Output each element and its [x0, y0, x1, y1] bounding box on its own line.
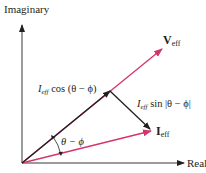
- angle-arc: [54, 138, 61, 154]
- axes: Imaginary Real: [4, 3, 206, 169]
- cos-component-label: Ieff cos (θ − ϕ): [37, 83, 97, 96]
- real-axis-label: Real: [187, 157, 206, 169]
- voltage-label: Veff: [163, 33, 181, 48]
- phasor-diagram: Imaginary Real Veff Ieff Ieff cos (θ − ϕ…: [0, 0, 206, 173]
- current-label: Ieff: [156, 124, 170, 139]
- angle-label: θ − ϕ: [61, 136, 84, 147]
- imaginary-axis-label: Imaginary: [4, 3, 50, 15]
- sin-component-label: Ieff sin |θ − ϕ|: [136, 98, 191, 111]
